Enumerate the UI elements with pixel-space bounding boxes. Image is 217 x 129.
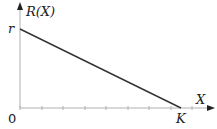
r-of-x-line — [20, 29, 181, 108]
y-axis-arrow-icon — [17, 2, 23, 10]
x-axis-arrow-icon — [207, 105, 215, 111]
y-intercept-label: r — [8, 21, 15, 36]
diagram-canvas: R(X) r 0 K X — [0, 0, 217, 129]
x-intercept-label: K — [175, 111, 187, 126]
y-axis-label: R(X) — [25, 4, 55, 19]
origin-label: 0 — [8, 111, 16, 126]
x-axis-label: X — [195, 92, 206, 107]
